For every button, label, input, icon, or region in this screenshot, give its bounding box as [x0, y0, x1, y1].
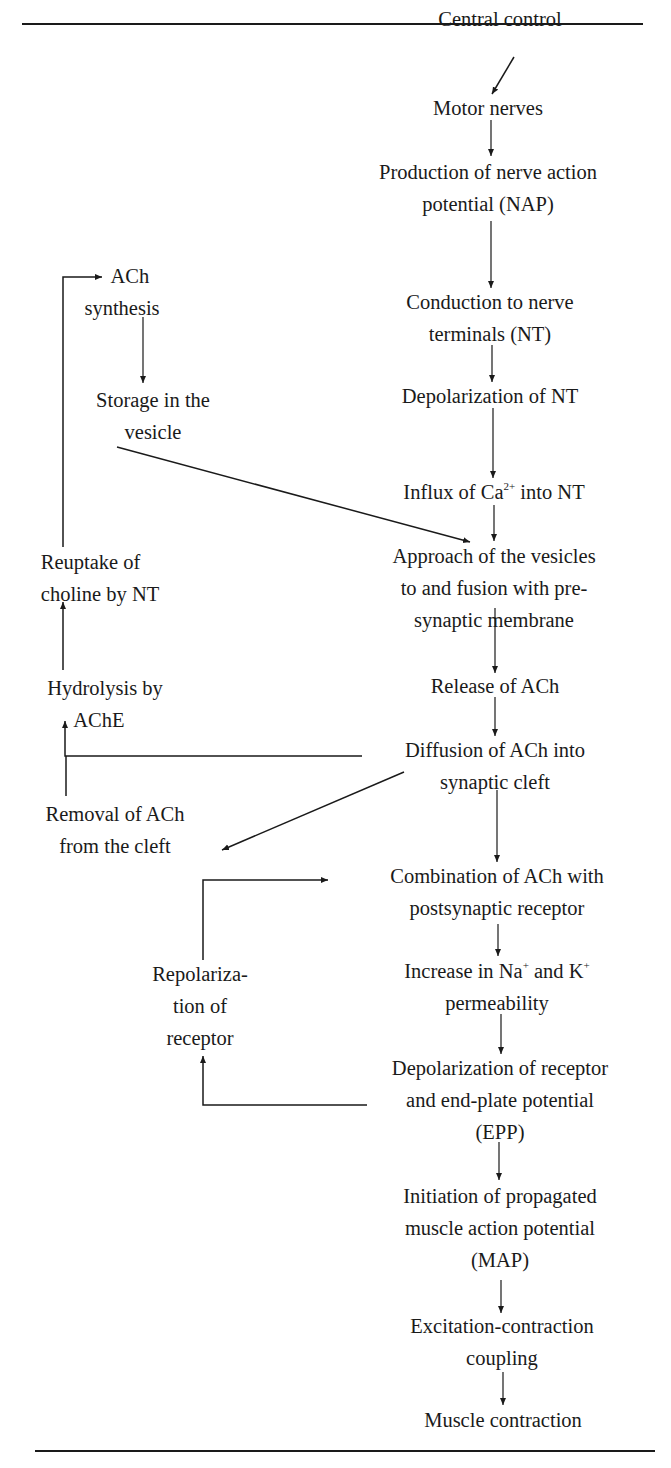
arrow-diffusion-to-removal — [222, 772, 404, 850]
node-diffusion: Diffusion of ACh into synaptic cleft — [405, 734, 585, 798]
node-ec-coupling: Excitation-contraction coupling — [410, 1310, 593, 1374]
node-epp: Depolarization of receptor and end-plate… — [392, 1052, 608, 1148]
arrow-epp-to-repolarization — [203, 1056, 367, 1105]
node-conduction: Conduction to nerve terminals (NT) — [406, 286, 573, 350]
node-central-control: Central control — [438, 3, 562, 35]
node-removal-ach: Removal of ACh from the cleft — [46, 798, 185, 862]
node-vesicle-approach: Approach of the vesicles to and fusion w… — [392, 540, 595, 636]
node-hydrolysis-ache: Hydrolysis by AChE — [47, 672, 163, 736]
node-reuptake-choline: Reuptake of choline by NT — [41, 546, 159, 610]
node-motor-nerves: Motor nerves — [433, 92, 543, 124]
node-map: Initiation of propagated muscle action p… — [403, 1180, 597, 1276]
node-release-ach: Release of ACh — [431, 670, 560, 702]
node-ach-synthesis: ACh synthesis — [84, 260, 159, 324]
node-depolarization-nt: Depolarization of NT — [402, 380, 578, 412]
node-combination: Combination of ACh with postsynaptic rec… — [390, 860, 604, 924]
node-repolarization: Repolariza- tion of receptor — [152, 958, 248, 1054]
arrow-repolarization-to-combination — [203, 880, 328, 960]
node-calcium-influx: Influx of Ca2+ into NT — [403, 476, 584, 508]
flowchart: Central control Motor nerves Production … — [0, 0, 671, 1468]
node-muscle-contraction: Muscle contraction — [424, 1404, 582, 1436]
arrow-central-to-motor — [492, 57, 514, 94]
node-nap: Production of nerve action potential (NA… — [379, 156, 597, 220]
node-permeability: Increase in Na+ and K+ permeability — [404, 955, 589, 1019]
node-storage-vesicle: Storage in the vesicle — [96, 384, 210, 448]
